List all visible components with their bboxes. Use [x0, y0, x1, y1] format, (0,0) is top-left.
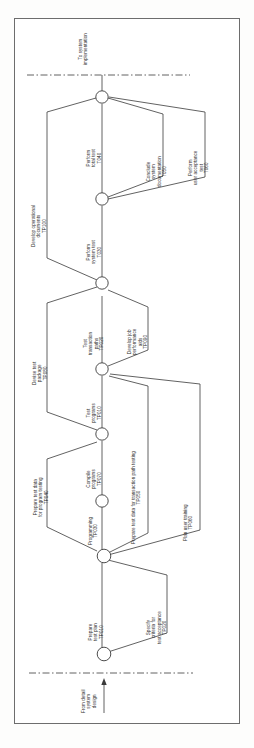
activity-line2: package — [37, 365, 42, 383]
exit-label-line2: implementation — [83, 33, 88, 65]
activity-line2: transaction — [88, 332, 93, 355]
activity-line1: Programming — [88, 517, 93, 545]
entry-arrow — [101, 678, 106, 713]
activity-label-devise-test-package: Devise test package TP080 — [32, 362, 48, 385]
exit-label: To system implementation — [78, 33, 89, 65]
activity-line1: Develop operational — [31, 205, 36, 247]
event-node-7 — [97, 549, 111, 563]
activity-label-prepare-test-data-program: Prepare test data for program testing TP… — [33, 477, 49, 517]
activity-line2: documents — [36, 215, 41, 238]
activity-label-programming: Programming TP030 — [88, 517, 99, 545]
activity-line1: Compile — [86, 471, 91, 488]
activity-code: T040 — [97, 149, 102, 167]
activity-line2: test plan — [93, 623, 98, 641]
activity-label-conclude-system-documentation: Conclude system documentation T050 — [146, 156, 168, 187]
activity-code: TP020 — [162, 611, 167, 644]
activity-line3: aids — [138, 338, 143, 347]
activity-label-develop-job-performance-aids: Develop job performance aids TP090 — [127, 329, 149, 355]
activity-label-prepare-test-plan: Prepare test plan TP010 — [88, 623, 104, 641]
activity-label-compile-programs: Compile programs TP070 — [86, 469, 102, 489]
activity-code: T050 — [162, 156, 167, 187]
activity-line1: Perform — [86, 244, 91, 261]
activity-code: T030 — [97, 240, 102, 264]
activity-code: TP030 — [93, 517, 98, 545]
event-node-5 — [96, 428, 108, 440]
event-node-6 — [96, 495, 108, 507]
activity-code: TP040 — [44, 477, 49, 517]
activity-label-plan-user-training: Plan user training TP060 — [183, 504, 194, 541]
activity-code: TP080 — [43, 362, 48, 385]
activity-line2: programs — [91, 403, 96, 423]
activity-line1: Devise test — [32, 362, 37, 385]
activity-line1: Develop job — [127, 329, 132, 354]
activity-line2: programs — [91, 469, 96, 489]
entry-label: From detail system design — [81, 689, 97, 713]
activity-line3: test — [199, 164, 204, 172]
activity-label-perform-system-test: Perform system test T030 — [86, 240, 102, 264]
event-node-1 — [96, 91, 108, 103]
activity-line1: Perform — [188, 159, 193, 176]
activity-line3: paths — [94, 338, 99, 350]
activity-line2: system — [151, 164, 156, 179]
activity-line2: performance — [132, 329, 137, 355]
activity-line1: Plan user training — [183, 504, 188, 541]
activity-label-develop-operational-documents: Develop operational documents TP100 — [31, 205, 47, 247]
network-diagram-canvas — [15, 19, 241, 725]
activity-code: TP100 — [42, 205, 47, 247]
activity-line1: Specify — [146, 620, 151, 635]
activity-code: TP010 — [99, 623, 104, 641]
activity-line1: Test — [83, 339, 88, 348]
activity-label-specify-criteria: Specify criteria for test acceptance TP0… — [146, 611, 168, 644]
activity-code: TP060 — [188, 504, 193, 541]
activity-line3: test acceptance — [157, 611, 162, 644]
activity-label-test-programs: Test programs TP010 — [86, 403, 102, 423]
entry-label-line3: design — [92, 694, 97, 708]
activity-code: TP010 — [97, 403, 102, 423]
activity-line2: for program testing — [38, 477, 43, 517]
activity-line1: Prepare — [88, 624, 93, 641]
activity-line1: Prepare test data for transaction path t… — [131, 451, 136, 544]
activity-label-perform-total-test: Perform total test T040 — [86, 149, 102, 167]
event-node-8 — [97, 647, 111, 661]
activity-line2: total test — [91, 149, 96, 167]
event-node-3 — [96, 277, 108, 289]
activity-line1: Conclude — [146, 162, 151, 182]
activity-code: TP070 — [97, 469, 102, 489]
activity-code: TP090 — [143, 329, 148, 355]
activity-line1: Test — [86, 409, 91, 418]
activity-arrows — [47, 75, 205, 654]
activity-code: TP020 — [99, 332, 104, 355]
activity-line2: criteria for — [151, 617, 156, 638]
figure-frame: To system implementation Perform total t… — [14, 18, 240, 724]
activity-line2: user acceptance — [193, 151, 198, 185]
activity-line2: system test — [91, 240, 96, 264]
activity-line3: documentation — [157, 156, 162, 187]
activity-label-perform-user-acceptance-test: Perform user acceptance test T060 — [188, 151, 210, 185]
activity-line1: Perform — [86, 150, 91, 167]
event-node-2 — [96, 193, 108, 205]
activity-line1: Prepare test data — [33, 479, 38, 515]
edge-prepare-test-data-transaction — [108, 376, 148, 553]
activity-code: TP050 — [136, 451, 141, 544]
page-root: To system implementation Perform total t… — [0, 0, 254, 748]
entry-label-line1: From detail — [81, 689, 86, 713]
event-node-group — [96, 91, 111, 661]
activity-label-test-transaction-paths: Test transaction paths TP020 — [83, 332, 105, 355]
entry-label-line2: system — [86, 694, 91, 709]
entry-arrow-head — [101, 678, 106, 685]
activity-label-prepare-test-data-transaction: Prepare test data for transaction path t… — [131, 451, 142, 544]
exit-label-line1: To system — [78, 39, 83, 60]
event-node-4 — [96, 363, 108, 375]
activity-code: T060 — [204, 151, 209, 185]
